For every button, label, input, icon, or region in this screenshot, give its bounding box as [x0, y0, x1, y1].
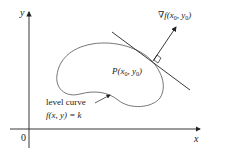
- curve-label-line1: level curve: [46, 98, 86, 107]
- point-label: P(x0, y0): [112, 67, 142, 77]
- origin-label: 0: [21, 133, 26, 143]
- gradient-label: ∇f(x0, y0): [158, 11, 191, 21]
- y-axis-label: y: [20, 8, 24, 18]
- x-axis-label: x: [194, 134, 198, 144]
- gradient-level-curve-diagram: y x 0 ∇f(x0, y0) P(x0, y0) level curve f…: [0, 0, 228, 159]
- tangent-line: [112, 32, 190, 90]
- right-angle-marker: [154, 55, 161, 63]
- curve-label-pointer: [95, 95, 110, 103]
- curve-label-line2: f(x, y) = k: [46, 111, 82, 120]
